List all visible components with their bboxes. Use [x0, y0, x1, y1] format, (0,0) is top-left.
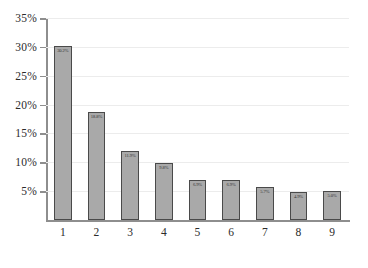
bar-value-label: 30.2% — [55, 49, 71, 54]
x-tick-label: 4 — [147, 226, 181, 238]
bar[interactable]: 5.0% — [323, 191, 341, 220]
bar-value-label: 6.9% — [223, 183, 239, 188]
bar[interactable]: 6.9% — [189, 180, 207, 220]
x-tick-label: 8 — [282, 226, 316, 238]
bar[interactable]: 6.9% — [222, 180, 240, 220]
y-tick-label: 35% — [15, 12, 37, 24]
bar-value-label: 4.9% — [291, 195, 307, 200]
bar-value-label: 5.7% — [257, 190, 273, 195]
bar-series: 30.2%18.8%11.9%9.8%6.9%6.9%5.7%4.9%5.0% — [46, 18, 349, 220]
bar-value-label: 9.8% — [156, 166, 172, 171]
x-tick-label: 5 — [181, 226, 215, 238]
bar-slot: 4.9% — [290, 192, 308, 220]
bar-value-label: 18.8% — [89, 115, 105, 120]
bar-slot: 9.8% — [155, 163, 173, 220]
bar[interactable]: 11.9% — [121, 151, 139, 220]
y-tick-label: 15% — [15, 127, 37, 139]
bar[interactable]: 18.8% — [88, 112, 106, 221]
x-tick-label: 9 — [315, 226, 349, 238]
x-tick-label: 6 — [214, 226, 248, 238]
plot-area: 5%10%15%20%25%30%35% 30.2%18.8%11.9%9.8%… — [46, 18, 349, 220]
x-axis-line — [46, 220, 350, 222]
bar-slot: 5.7% — [256, 187, 274, 220]
x-tick-label: 3 — [113, 226, 147, 238]
x-tick-label: 7 — [248, 226, 282, 238]
bar-slot: 18.8% — [88, 112, 106, 221]
bar-slot: 6.9% — [222, 180, 240, 220]
x-tick-label: 2 — [80, 226, 114, 238]
bar-slot: 5.0% — [323, 191, 341, 220]
y-tick-label: 5% — [21, 185, 37, 197]
bar[interactable]: 9.8% — [155, 163, 173, 220]
y-tick-label: 10% — [15, 156, 37, 168]
y-tick-label: 20% — [15, 98, 37, 110]
bar[interactable]: 5.7% — [256, 187, 274, 220]
bar-value-label: 11.9% — [122, 154, 138, 159]
bar-slot: 11.9% — [121, 151, 139, 220]
bar-value-label: 5.0% — [324, 194, 340, 199]
bar[interactable]: 30.2% — [54, 46, 72, 220]
bar-value-label: 6.9% — [190, 183, 206, 188]
y-tick-label: 30% — [15, 41, 37, 53]
bar[interactable]: 4.9% — [290, 192, 308, 220]
bar-chart: 5%10%15%20%25%30%35% 30.2%18.8%11.9%9.8%… — [0, 0, 368, 268]
bar-slot: 30.2% — [54, 46, 72, 220]
y-tick-label: 25% — [15, 69, 37, 81]
x-tick-label: 1 — [46, 226, 80, 238]
bar-slot: 6.9% — [189, 180, 207, 220]
